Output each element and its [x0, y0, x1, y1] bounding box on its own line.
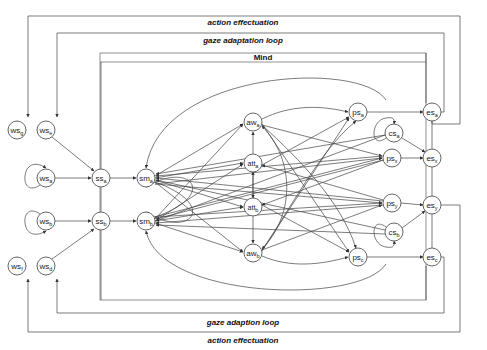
- node-ws-d: wsd: [37, 257, 55, 275]
- node-ps-a: psa: [349, 103, 367, 121]
- node-ws-b: wsb: [37, 212, 55, 230]
- label-mind: Mind: [254, 53, 273, 62]
- node-es-y: esy: [423, 196, 441, 214]
- node-ps-y: psy: [383, 194, 401, 212]
- node-ws-e: wse: [37, 121, 55, 139]
- gaze-adaptation-loop-top: [57, 33, 444, 117]
- node-ws-f: wsf: [8, 257, 26, 275]
- node-aw-b: awb: [244, 244, 262, 262]
- node-cs-b: csb: [385, 223, 403, 241]
- node-ps-c: psc: [349, 248, 367, 266]
- node-es-a: esa: [423, 103, 441, 121]
- action-effectuation-loop-top: [28, 16, 460, 124]
- gaze-adaptation-loop-bottom: [57, 257, 444, 313]
- node-ss-a: ssa: [92, 169, 110, 187]
- node-sm-b: smb: [137, 212, 155, 230]
- node-ws-a: wsa: [37, 169, 55, 187]
- node-es-x: esx: [423, 149, 441, 167]
- node-aw-a: awa: [244, 113, 262, 131]
- node-ps-x: psx: [383, 149, 401, 167]
- node-cs-a: csa: [385, 124, 403, 142]
- node-ss-b: ssb: [92, 212, 110, 230]
- label-action-effectuation-top: action effectuation: [208, 18, 279, 27]
- label-gaze-adaption-bottom: gaze adaption loop: [206, 318, 280, 327]
- label-action-effectuation-bottom: action effectuation: [208, 336, 279, 345]
- cognitive-architecture-diagram: action effectuation gaze adaptation loop…: [0, 0, 487, 350]
- node-sm-a: sma: [137, 169, 155, 187]
- node-att-a: atta: [244, 154, 262, 172]
- node-att-b: attb: [244, 198, 262, 216]
- label-gaze-adaptation-top: gaze adaptation loop: [202, 36, 283, 45]
- node-ws-g: wsg: [8, 121, 26, 139]
- node-es-c: esc: [423, 248, 441, 266]
- nodes: wsgwsewsawsbwsfwsdssassbsmasmbawaattaatt…: [8, 103, 441, 275]
